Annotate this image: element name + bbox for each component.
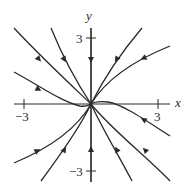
y-tick-label-pos3: 3 [76,32,83,45]
y-tick-label-neg3: −3 [69,165,83,178]
trajectory-lower-right-1 [91,104,132,181]
arrow-icon [88,57,94,63]
x-tick-label-neg3: −3 [15,110,29,123]
x-axis-label: x [175,96,181,109]
trajectory-upper-left-2 [51,28,91,104]
trajectory-left-curve [14,72,91,106]
phase-portrait-plot [0,0,188,189]
arrow-icon [141,146,149,154]
y-axis-label: y [86,9,92,22]
arrow-icon [88,146,94,152]
x-tick-label-pos3: 3 [154,110,161,123]
arrow-icon [139,54,147,62]
phase-portrait-figure: y x −3 3 3 −3 [0,0,188,189]
trajectory-upper-right-2 [91,46,170,104]
